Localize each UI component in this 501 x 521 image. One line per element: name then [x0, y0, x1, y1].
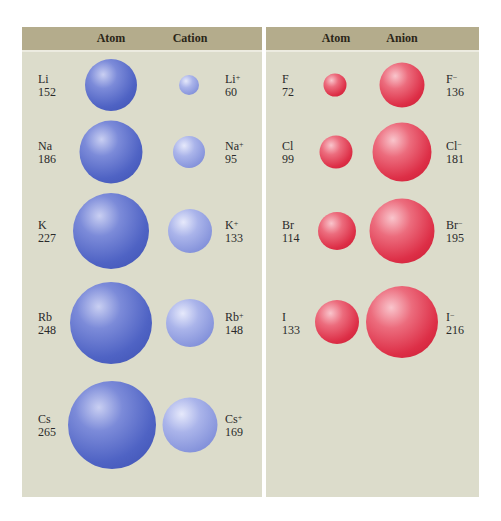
atom-sphere-rb [70, 282, 152, 364]
ion-sphere-br [370, 199, 435, 264]
ion-sphere-i [366, 286, 438, 358]
ion-label-li: Li+60 [225, 73, 240, 99]
atom-sphere-cl [320, 136, 353, 169]
atom-sphere-f [324, 74, 347, 97]
ion-sphere-na [173, 136, 205, 168]
ion-label-br: Br−195 [446, 219, 464, 245]
atom-label-i: I133 [282, 311, 300, 337]
ion-label-f: F−136 [446, 73, 464, 99]
atom-sphere-na [80, 121, 143, 184]
ion-sphere-li [179, 75, 199, 95]
ion-label-k: K+133 [225, 219, 243, 245]
atom-sphere-k [73, 193, 149, 269]
atom-sphere-br [318, 212, 356, 250]
atom-sphere-i [315, 300, 359, 344]
cation-header: Cation [173, 31, 208, 46]
atom-label-rb: Rb248 [38, 311, 56, 337]
ion-label-cl: Cl−181 [446, 140, 464, 166]
ion-label-rb: Rb+148 [225, 311, 244, 337]
ion-label-na: Na+95 [225, 140, 244, 166]
ion-label-i: I−216 [446, 311, 464, 337]
ion-sphere-rb [166, 299, 214, 347]
atom-label-na: Na186 [38, 140, 56, 166]
atom-header: Atom [97, 31, 126, 46]
atom-label-f: F72 [282, 73, 294, 99]
cation-panel-header: Atom Cation [22, 27, 262, 52]
atom-header: Atom [322, 31, 351, 46]
ion-sphere-cl [373, 123, 432, 182]
ion-label-cs: Cs+169 [225, 413, 243, 439]
ion-sphere-f [380, 63, 425, 108]
atom-sphere-cs [68, 381, 156, 469]
ion-sphere-cs [163, 398, 218, 453]
atom-label-li: Li152 [38, 73, 56, 99]
anion-panel-header: Atom Anion [266, 27, 479, 52]
ion-sphere-k [168, 209, 212, 253]
atom-sphere-li [85, 59, 137, 111]
atom-label-k: K227 [38, 219, 56, 245]
atom-label-cl: Cl99 [282, 140, 294, 166]
atom-label-cs: Cs265 [38, 413, 56, 439]
anion-header: Anion [386, 31, 417, 46]
atom-label-br: Br114 [282, 219, 300, 245]
